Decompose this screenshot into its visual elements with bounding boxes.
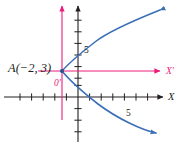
point-a-label: A(−2, 3) bbox=[7, 61, 51, 75]
figure-container: A(−2, 3) 0' X' X 5 5 bbox=[0, 0, 185, 148]
x-axis-tick-label-5: 5 bbox=[126, 108, 131, 118]
vertex-point-a bbox=[60, 69, 64, 73]
x-prime-axis-label: X' bbox=[165, 66, 175, 76]
origin-prime-label: 0' bbox=[54, 78, 62, 88]
translated-axes bbox=[38, 6, 160, 120]
parabola-translated-axes-figure: A(−2, 3) 0' X' X 5 5 bbox=[0, 0, 185, 148]
y-axis-tick-label-5: 5 bbox=[84, 45, 89, 55]
x-axis-label: X bbox=[167, 91, 175, 102]
